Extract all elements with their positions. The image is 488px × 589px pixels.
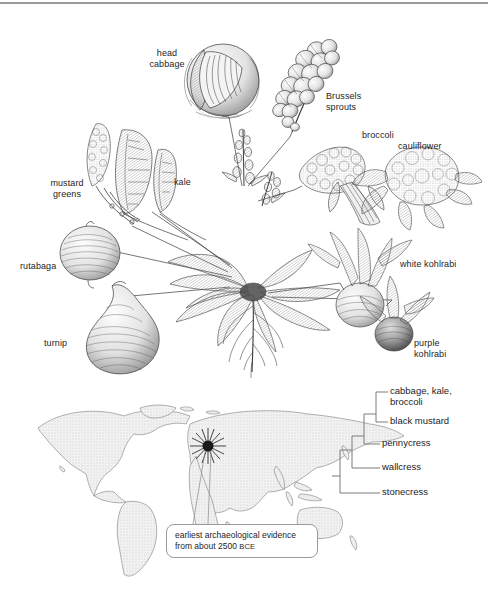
callout-line-2: from about 2500 BCE	[175, 541, 310, 552]
rutabaga-illustration	[60, 222, 120, 288]
clado-label-wallcress: wallcress	[382, 461, 478, 472]
callout-era: BCE	[239, 542, 255, 551]
label-cauliflower: cauliflower	[398, 141, 460, 152]
label-kale: kale	[174, 177, 206, 188]
label-head-cabbage: head cabbage	[143, 48, 191, 69]
figure-root: head cabbage Brussels sprouts broccoli c…	[0, 0, 488, 589]
brussels-sprouts-illustration	[270, 37, 341, 137]
callout-line-1: earliest archaeological evidence	[175, 530, 310, 541]
illustration-artwork	[0, 0, 488, 589]
label-brussels-sprouts: Brussels sprouts	[326, 91, 384, 112]
clado-label-black-mustard: black mustard	[390, 415, 486, 426]
label-white-kohlrabi: white kohlrabi	[400, 259, 480, 270]
clado-label-stonecress: stonecress	[382, 486, 478, 497]
label-purple-kohlrabi: purple kohlrabi	[414, 338, 474, 359]
head-cabbage-illustration	[185, 44, 260, 119]
clado-label-pennycress: pennycress	[382, 437, 478, 448]
turnip-illustration	[86, 282, 159, 374]
callout-line-2-prefix: from about 2500	[175, 541, 239, 551]
label-turnip: turnip	[44, 338, 82, 349]
label-broccoli: broccoli	[362, 130, 410, 141]
archaeology-callout: earliest archaeological evidence from ab…	[166, 524, 318, 558]
cladogram: cabbage, kale, broccoli black mustard pe…	[332, 383, 488, 498]
label-mustard-greens: mustard greens	[40, 178, 94, 199]
clado-label-cabbage-kale-broccoli: cabbage, kale, broccoli	[390, 385, 486, 407]
label-rutabaga: rutabaga	[20, 261, 68, 272]
